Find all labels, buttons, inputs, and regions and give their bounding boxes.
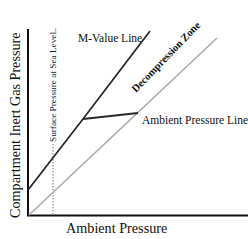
m-value-line — [28, 31, 150, 190]
m-value-connector — [83, 113, 138, 119]
x-axis-label: Ambient Pressure — [66, 220, 167, 236]
ambient-pressure-line-label: Ambient Pressure Line — [142, 114, 248, 126]
decompression-zone-label: Decompression Zone — [130, 19, 203, 94]
surface-pressure-ellipsis: .. — [49, 28, 58, 32]
y-axis-label: Compartment Inert Gas Pressure — [7, 32, 23, 218]
decompression-diagram: Compartment Inert Gas Pressure Ambient P… — [0, 0, 248, 239]
surface-pressure-label: Surface Pressure at Sea Level — [49, 31, 58, 142]
m-value-line-label: M-Value Line — [78, 32, 142, 44]
